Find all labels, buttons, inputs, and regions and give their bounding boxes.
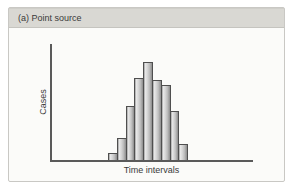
chart-area: Cases Time intervals xyxy=(9,29,284,181)
x-axis-label: Time intervals xyxy=(50,165,253,175)
x-axis-line xyxy=(50,160,253,162)
histogram-bar xyxy=(178,144,188,160)
figure-panel: (a) Point source Cases Time intervals xyxy=(8,7,285,182)
panel-header-bar: (a) Point source xyxy=(9,8,284,28)
panel-title: (a) Point source xyxy=(18,13,82,23)
histogram-bars-group xyxy=(108,29,188,160)
y-axis-line xyxy=(50,44,52,161)
y-axis-label: Cases xyxy=(38,82,48,122)
